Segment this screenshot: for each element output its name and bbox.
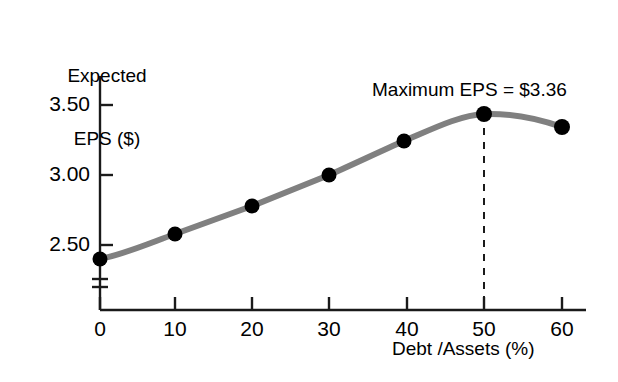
max-eps-annotation: Maximum EPS = $3.36	[372, 79, 567, 100]
data-point-60	[554, 119, 570, 135]
y-axis-title-line1: Expected	[42, 65, 172, 86]
data-point-20	[245, 199, 260, 214]
y-tick-label-350: 3.50	[20, 92, 90, 116]
x-tick-label-20: 20	[222, 317, 282, 341]
data-point-40	[397, 134, 412, 149]
x-tick-label-0: 0	[70, 317, 130, 341]
x-tick-label-30: 30	[299, 317, 359, 341]
y-tick-label-300: 3.00	[20, 162, 90, 186]
y-axis-title-line2: EPS ($)	[42, 128, 172, 149]
x-tick-label-60: 60	[532, 317, 592, 341]
eps-vs-debt-ratio-chart: Expected EPS ($) 3.50 3.00 2.50 0 10 20 …	[0, 0, 618, 382]
x-axis-title: Debt /Assets (%)	[392, 338, 535, 359]
data-point-50	[476, 106, 492, 122]
data-point-30	[322, 168, 337, 183]
y-tick-label-250: 2.50	[20, 232, 90, 256]
data-point-10	[168, 227, 183, 242]
data-point-0	[93, 252, 108, 267]
x-tick-label-10: 10	[145, 317, 205, 341]
